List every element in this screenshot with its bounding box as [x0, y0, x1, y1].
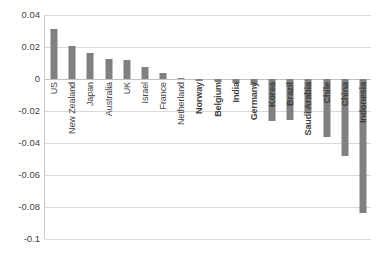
- y-axis-tick-label: 0.04: [0, 10, 40, 20]
- bar-group: Indonesia: [354, 15, 372, 239]
- bar[interactable]: [178, 78, 185, 79]
- category-label: France: [159, 82, 168, 109]
- bars-layer: USNew ZealandJapanAustraliaUKIsraelFranc…: [45, 15, 371, 239]
- bar-group: Belgium: [209, 15, 227, 239]
- bar[interactable]: [160, 73, 167, 79]
- category-label: Indonesia: [358, 82, 367, 123]
- bar[interactable]: [141, 67, 148, 79]
- category-label: Netherland: [177, 82, 186, 125]
- category-label: New Zealand: [68, 82, 77, 134]
- bar-group: Japan: [81, 15, 99, 239]
- bar-group: Israel: [136, 15, 154, 239]
- category-label: Brazil: [286, 82, 295, 106]
- y-axis-tick-label: -0.06: [0, 170, 40, 180]
- category-label: Japan: [86, 82, 95, 106]
- category-label: Belgium: [213, 82, 222, 117]
- category-label: Australia: [104, 82, 113, 116]
- bar-group: Saudi Arabia: [299, 15, 317, 239]
- y-axis-tick-label: -0.04: [0, 138, 40, 148]
- category-label: Chile: [322, 82, 331, 104]
- category-label: UK: [122, 82, 131, 94]
- bar-group: Chile: [318, 15, 336, 239]
- category-label: Israel: [140, 82, 149, 103]
- y-axis-tick-label: -0.02: [0, 106, 40, 116]
- category-label: US: [50, 82, 59, 94]
- bar[interactable]: [123, 60, 130, 79]
- category-label: Korea: [268, 82, 277, 107]
- y-axis-tick-label: 0: [0, 74, 40, 84]
- bar[interactable]: [105, 59, 112, 79]
- bar-group: New Zealand: [63, 15, 81, 239]
- y-axis-tick-label: 0.02: [0, 42, 40, 52]
- bar-group: Australia: [100, 15, 118, 239]
- bar-group: US: [45, 15, 63, 239]
- bar-group: Germany: [245, 15, 263, 239]
- bar-group: Netherland: [172, 15, 190, 239]
- category-label: India: [231, 82, 240, 103]
- category-label: Saudi Arabia: [304, 82, 313, 135]
- y-axis-tick-label: -0.1: [0, 234, 40, 244]
- gridline--0.1: [45, 239, 371, 240]
- bar-group: China: [336, 15, 354, 239]
- bar-chart: 0.040.020-0.02-0.04-0.06-0.08-0.1 USNew …: [0, 0, 376, 258]
- bar[interactable]: [69, 46, 76, 79]
- bar[interactable]: [87, 53, 94, 79]
- y-axis-tick-label: -0.08: [0, 202, 40, 212]
- category-label: Germany: [249, 82, 258, 120]
- category-label: China: [340, 82, 349, 107]
- bar-group: Brazil: [281, 15, 299, 239]
- bar-group: Norway: [190, 15, 208, 239]
- category-label: Norway: [195, 82, 204, 114]
- bar-group: Korea: [263, 15, 281, 239]
- bar[interactable]: [51, 29, 58, 79]
- plot-area: USNew ZealandJapanAustraliaUKIsraelFranc…: [44, 15, 371, 239]
- bar-group: UK: [118, 15, 136, 239]
- bar-group: India: [227, 15, 245, 239]
- bar[interactable]: [196, 79, 203, 81]
- bar-group: France: [154, 15, 172, 239]
